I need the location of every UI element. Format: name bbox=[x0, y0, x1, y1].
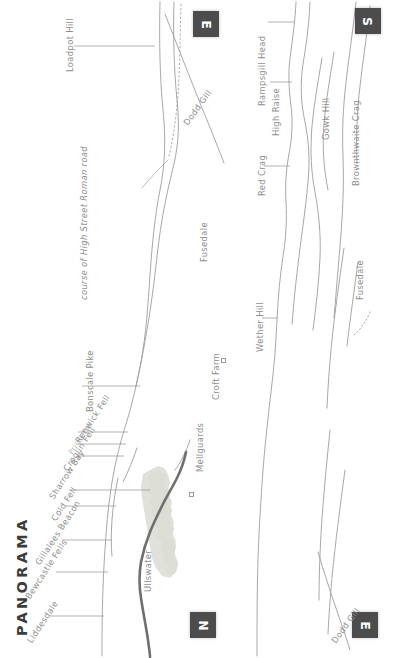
feature-label-ullswater: Ullswater bbox=[144, 550, 152, 592]
feature-label-fusedale-left: Fusedale bbox=[200, 222, 208, 262]
map-symbol-mellguards bbox=[189, 492, 194, 497]
compass-marker-s-top: S bbox=[355, 8, 381, 34]
feature-label-fusedale-right: Fusedale bbox=[356, 260, 364, 300]
peak-label-gowk-hill: Gowk Hill bbox=[322, 98, 330, 140]
map-symbol-croft-farm bbox=[221, 358, 226, 363]
feature-label-mellguards: Mellguards bbox=[196, 423, 204, 472]
compass-marker-n-bottom: N bbox=[190, 612, 216, 638]
peak-label-red-crag: Red Crag bbox=[258, 155, 266, 196]
peak-label-loadpot-hill: Loadpot Hill bbox=[66, 18, 74, 72]
peak-label-brownthwaite-crag: Brownthwaite Crag bbox=[352, 100, 360, 186]
page-title: PANORAMA bbox=[14, 517, 30, 636]
peak-label-rampsgill-head: Rampsgill Head bbox=[258, 36, 266, 106]
compass-marker-e-top: E bbox=[193, 11, 219, 37]
panorama-figure: PANORAMA E S N E Loadpot Hill Bonscale P… bbox=[0, 0, 395, 658]
peak-label-wether-hill: Wether Hill bbox=[256, 302, 264, 352]
feature-label-roman-road: course of High Street Roman road bbox=[80, 146, 88, 300]
feature-label-croft-farm: Croft Farm bbox=[212, 353, 220, 400]
peak-label-bonscale-pike: Bonscale Pike bbox=[86, 350, 94, 412]
peak-label-high-raise: High Raise bbox=[272, 88, 280, 136]
